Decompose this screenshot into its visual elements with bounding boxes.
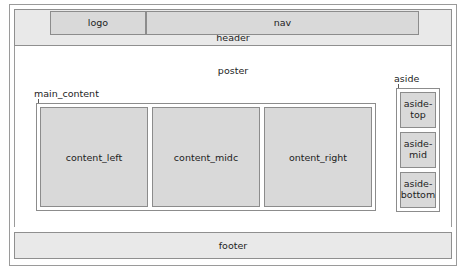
main-content-columns: content_left content_midc ontent_right <box>40 107 372 207</box>
nav-box: nav <box>146 11 419 35</box>
logo-label: logo <box>88 17 108 28</box>
aside-bottom-label: aside- bottom <box>401 179 435 201</box>
footer-box: footer <box>14 232 452 259</box>
aside-mid-label: aside- mid <box>404 139 433 161</box>
content-right-box: ontent_right <box>264 107 372 207</box>
content-left-box: content_left <box>40 107 148 207</box>
aside-bottom-box: aside- bottom <box>400 172 436 208</box>
aside-callout-label: aside <box>394 73 419 84</box>
content-right-label: ontent_right <box>289 152 347 163</box>
logo-box: logo <box>50 11 146 35</box>
aside-top-box: aside- top <box>400 92 436 128</box>
poster-label: poster <box>15 65 451 76</box>
footer-label: footer <box>219 240 247 251</box>
nav-label: nav <box>274 17 291 28</box>
aside-top-label: aside- top <box>404 99 433 121</box>
content-left-label: content_left <box>66 152 123 163</box>
main-content-callout-label: main_content <box>34 88 99 99</box>
aside-mid-box: aside- mid <box>400 132 436 168</box>
main-content-container: content_left content_midc ontent_right <box>36 103 376 211</box>
aside-container: aside- top aside- mid aside- bottom <box>396 88 440 212</box>
content-mid-box: content_midc <box>152 107 260 207</box>
wireframe-diagram: header logo nav poster main_content cont… <box>0 0 465 277</box>
content-mid-label: content_midc <box>174 152 238 163</box>
